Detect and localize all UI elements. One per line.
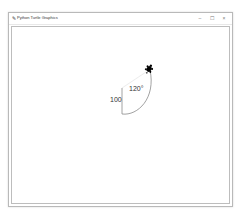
side-length-label: 100 bbox=[110, 96, 122, 103]
arc-line bbox=[122, 70, 151, 114]
turtle-drawing bbox=[0, 0, 241, 214]
angle-label: 120° bbox=[129, 85, 143, 92]
turtle-icon bbox=[143, 63, 154, 75]
